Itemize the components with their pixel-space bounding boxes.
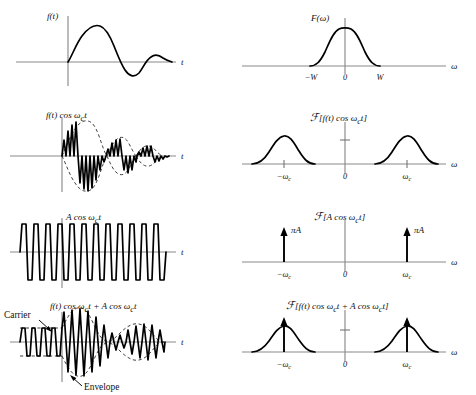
panel-am-time: f(t) cos ωct + A cos ωct Carrier Envelop… xyxy=(0,296,238,395)
carrier-freq-label: ℱ[A cos ωct] xyxy=(314,210,366,225)
panel-carrier-freq: πA πA ℱ[A cos ωct] −ωc 0 ωc ω xyxy=(238,206,476,296)
carrier-callout-label: Carrier xyxy=(4,310,31,320)
omega-axis-label: ω xyxy=(451,159,457,169)
omega-axis-label: ω xyxy=(451,257,457,267)
envelope-callout-label: Envelope xyxy=(84,382,119,392)
tick-zero: 0 xyxy=(343,270,348,279)
panel-carrier-time: A cos ωct t xyxy=(0,206,238,296)
impulse-weight-left: πA xyxy=(291,225,302,235)
tick-plus-w: W xyxy=(377,73,385,82)
impulse-weight-right: πA xyxy=(414,225,425,235)
lower-sideband-curve xyxy=(252,136,315,164)
impulse-neg-arrowhead xyxy=(280,227,287,236)
impulse-pos-arrowhead xyxy=(403,227,410,236)
tick-zero: 0 xyxy=(343,360,348,369)
time-axis-label: t xyxy=(181,57,184,67)
time-axis-label: t xyxy=(181,247,184,257)
omega-axis-label: ω xyxy=(451,347,457,357)
tick-neg-wc: −ωc xyxy=(277,270,292,280)
baseband-waveform xyxy=(68,25,172,75)
carrier-time-label: A cos ωct xyxy=(65,212,102,225)
spectrum-label: F(ω) xyxy=(310,13,329,23)
tick-zero: 0 xyxy=(343,172,348,181)
panel-dsb-time: f(t) cos ωct t xyxy=(0,104,238,200)
omega-axis-label: ω xyxy=(451,61,457,71)
tick-neg-wc: −ωc xyxy=(277,172,292,182)
am-modulation-figure: f(t) t F(ω) −W 0 W ω f(t) cos ω xyxy=(0,0,476,395)
am-time-label: f(t) cos ωct + A cos ωct xyxy=(50,301,137,314)
dsb-freq-label: ℱ[f(t) cos ωct] xyxy=(310,111,367,126)
baseband-label: f(t) xyxy=(47,11,58,21)
tick-neg-wc: −ωc xyxy=(277,360,292,370)
am-freq-label: ℱ[f(t) cos ωct + A cos ωct] xyxy=(286,299,389,314)
panel-baseband-freq: F(ω) −W 0 W ω xyxy=(238,2,476,94)
upper-sideband-curve xyxy=(375,136,438,164)
impulse-pos-arrowhead xyxy=(403,317,410,326)
panel-dsb-freq: ℱ[f(t) cos ωct] −ωc 0 ωc ω xyxy=(238,104,476,200)
time-axis-label: t xyxy=(181,337,184,347)
time-axis-label: t xyxy=(181,151,184,161)
tick-pos-wc: ωc xyxy=(403,270,412,280)
tick-pos-wc: ωc xyxy=(403,172,412,182)
dsb-time-label: f(t) cos ωct xyxy=(46,110,87,123)
tick-zero: 0 xyxy=(343,73,348,82)
tick-pos-wc: ωc xyxy=(403,360,412,370)
panel-baseband-time: f(t) t xyxy=(0,2,238,94)
impulse-neg-arrowhead xyxy=(280,317,287,326)
panel-am-freq: ℱ[f(t) cos ωct + A cos ωct] −ωc 0 ωc ω xyxy=(238,296,476,395)
tick-minus-w: −W xyxy=(305,73,319,82)
